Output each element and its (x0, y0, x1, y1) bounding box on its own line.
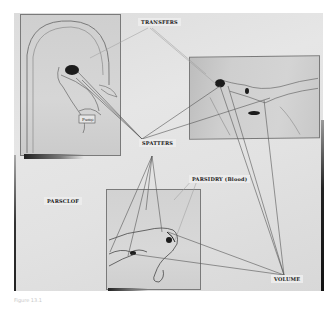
label-transfers: TRANSFERS (138, 18, 181, 26)
connecting-strings (0, 0, 334, 309)
figure-caption: Figure 13.1 (14, 297, 42, 303)
label-spatters: SPATTERS (139, 139, 176, 147)
label-parsidry-blood: PARSIDRY (Blood) (189, 175, 250, 183)
label-parsclof: PARSCLOF (44, 197, 82, 205)
label-volume: VOLUME (271, 275, 303, 283)
